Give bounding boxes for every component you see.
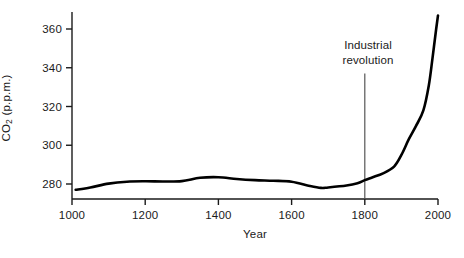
x-tick-label: 1600 [278,209,304,221]
y-tick-label: 320 [28,101,62,113]
x-axis-title: Year [243,228,267,240]
y-axis-title-subscript: 2 [4,119,14,124]
co2-line-chart: 280300320340360 100012001400160018002000… [0,0,464,258]
annotation-line-1: Industrial [308,38,428,53]
y-tick-label: 280 [28,178,62,190]
x-tick-label: 1000 [59,209,85,221]
x-tick-label: 1200 [132,209,158,221]
y-axis-title-prefix: CO [0,124,12,142]
x-tick-label: 1800 [352,209,378,221]
annotation-label-industrial-revolution: Industrial revolution [308,38,428,68]
y-tick-label: 340 [28,62,62,74]
y-tick-label: 360 [28,23,62,35]
x-tick-label: 2000 [425,209,451,221]
y-tick-label: 300 [28,139,62,151]
y-axis-title: CO2 (p.p.m.) [0,74,12,141]
y-axis-title-suffix: (p.p.m.) [0,74,12,119]
annotation-line-2: revolution [308,53,428,68]
x-tick-label: 1400 [205,209,231,221]
